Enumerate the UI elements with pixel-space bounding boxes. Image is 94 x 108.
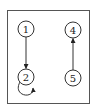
node-5-label: 5 (70, 73, 76, 84)
node-4[interactable]: 4 (65, 22, 81, 38)
node-5[interactable]: 5 (65, 70, 81, 86)
graph-svg: 1 2 4 5 (0, 0, 94, 108)
node-1[interactable]: 1 (18, 21, 34, 37)
node-1-label: 1 (23, 24, 29, 35)
graph-canvas: 1 2 4 5 (0, 0, 94, 108)
node-4-label: 4 (70, 25, 76, 36)
node-2-label: 2 (23, 72, 29, 83)
node-2[interactable]: 2 (18, 69, 34, 85)
